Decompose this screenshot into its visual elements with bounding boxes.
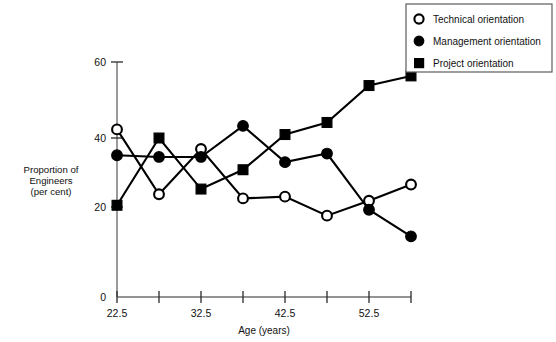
data-point-square-icon — [280, 130, 290, 140]
data-point-open-circle-icon — [238, 193, 248, 203]
data-point-open-circle-icon — [154, 189, 164, 199]
chart-figure: Proportion of Engineers (per cent) 60 40… — [0, 0, 556, 342]
y-tick-label-0: 0 — [100, 291, 106, 303]
y-axis-ticks: 60 40 20 0 — [94, 56, 123, 303]
x-axis-title: Age (years) — [238, 325, 290, 336]
data-point-filled-circle-icon — [112, 150, 123, 161]
legend-marker-filled-circle-icon — [414, 36, 424, 46]
data-point-square-icon — [154, 133, 164, 143]
data-point-filled-circle-icon — [406, 231, 417, 242]
data-point-open-circle-icon — [280, 192, 290, 202]
y-axis-label: Proportion of Engineers (per cent) — [24, 164, 79, 197]
x-tick-label-52-5: 52.5 — [359, 307, 380, 319]
legend-label-management: Management orientation — [433, 36, 541, 47]
data-point-square-icon — [322, 118, 332, 128]
data-point-open-circle-icon — [406, 180, 416, 190]
legend: Technical orientation Management orienta… — [406, 4, 552, 72]
x-tick-label-42-5: 42.5 — [275, 307, 296, 319]
y-tick-label-20: 20 — [94, 201, 106, 213]
y-tick-label-60: 60 — [94, 56, 106, 68]
series-layer — [112, 71, 417, 242]
legend-label-technical: Technical orientation — [433, 14, 524, 25]
data-point-filled-circle-icon — [238, 121, 249, 132]
data-point-filled-circle-icon — [154, 152, 165, 163]
x-axis-ticks: 22.5 32.5 42.5 52.5 — [107, 291, 411, 319]
data-point-open-circle-icon — [112, 124, 122, 134]
data-point-square-icon — [238, 165, 248, 175]
legend-label-project: Project orientation — [433, 58, 514, 69]
legend-marker-open-circle-icon — [414, 14, 423, 23]
y-axis-label-line-3: (per cent) — [30, 186, 71, 197]
data-point-filled-circle-icon — [322, 148, 333, 159]
y-axis-label-line-1: Proportion of — [24, 164, 79, 175]
data-point-square-icon — [112, 200, 122, 210]
axes-group — [117, 62, 411, 297]
legend-marker-filled-square-icon — [415, 59, 424, 68]
data-point-filled-circle-icon — [280, 157, 291, 168]
data-point-square-icon — [196, 184, 206, 194]
data-point-square-icon — [364, 81, 374, 91]
y-axis-label-line-2: Engineers — [29, 175, 72, 186]
x-tick-label-22-5: 22.5 — [107, 307, 128, 319]
data-point-open-circle-icon — [322, 211, 332, 221]
x-tick-label-32-5: 32.5 — [191, 307, 212, 319]
data-point-filled-circle-icon — [364, 204, 375, 215]
data-point-filled-circle-icon — [196, 152, 207, 163]
chart-svg: Proportion of Engineers (per cent) 60 40… — [0, 0, 556, 342]
y-tick-label-40: 40 — [94, 132, 106, 144]
